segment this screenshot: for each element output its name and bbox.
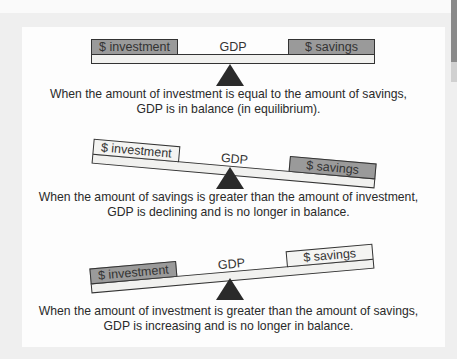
top-strip bbox=[0, 0, 457, 13]
caption-equilibrium: When the amount of investment is equal t… bbox=[0, 87, 457, 117]
fulcrum-triangle-icon bbox=[216, 64, 244, 86]
fulcrum-triangle-icon bbox=[216, 167, 244, 189]
caption-line: When the amount of investment is greater… bbox=[0, 304, 457, 319]
caption-line: GDP is increasing and is no longer in ba… bbox=[0, 319, 457, 334]
caption-increasing: When the amount of investment is greater… bbox=[0, 304, 457, 334]
caption-line: GDP is declining and is no longer in bal… bbox=[0, 205, 457, 220]
caption-line: GDP is in balance (in equilibrium). bbox=[0, 102, 457, 117]
savings-box: $ savings bbox=[288, 39, 375, 55]
caption-line: When the amount of investment is equal t… bbox=[0, 87, 457, 102]
scrollbar-track[interactable] bbox=[451, 62, 457, 82]
fulcrum-triangle-icon bbox=[216, 278, 244, 300]
caption-line: When the amount of savings is greater th… bbox=[0, 190, 457, 205]
scrollbar-thumb[interactable] bbox=[451, 0, 457, 62]
caption-declining: When the amount of savings is greater th… bbox=[0, 190, 457, 220]
balance-beam-equilibrium: $ investment GDP $ savings bbox=[91, 38, 375, 64]
beam-bar bbox=[91, 54, 375, 64]
